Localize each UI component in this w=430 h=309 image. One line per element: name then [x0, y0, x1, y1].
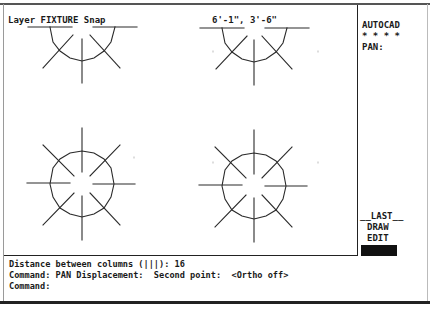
- coordinate-display: 6'-1", 3'-6": [212, 15, 277, 26]
- command-history-line-2: Command: PAN Displacement: Second point:…: [9, 270, 288, 280]
- menu-highlight-bar[interactable]: [361, 245, 397, 256]
- round-fixture-2: [199, 130, 307, 242]
- drawing-canvas[interactable]: Layer FIXTURE Snap 6'-1", 3'-6": [4, 5, 357, 256]
- round-fixture-1: [27, 128, 135, 240]
- menu-item-last[interactable]: __LAST__: [360, 211, 403, 222]
- half-round-fixture-1: [28, 27, 137, 83]
- layer-status: Layer FIXTURE Snap: [8, 15, 106, 26]
- menu-separator[interactable]: * * * *: [362, 31, 400, 42]
- menu-item-draw[interactable]: DRAW: [367, 222, 389, 233]
- menu-title[interactable]: AUTOCAD: [362, 20, 400, 31]
- menu-item-edit[interactable]: EDIT: [367, 233, 389, 244]
- menu-current-command: PAN:: [362, 42, 384, 53]
- drawing-svg: [0, 0, 360, 260]
- half-round-fixture-2: [200, 28, 309, 85]
- command-prompt-input[interactable]: Command:: [9, 281, 50, 291]
- command-history-line-1: Distance between columns (|||): 16: [9, 259, 185, 269]
- screen-menu: AUTOCAD * * * * PAN: __LAST__ DRAW EDIT: [357, 5, 428, 256]
- command-prompt-area[interactable]: Distance between columns (|||): 16 Comma…: [0, 256, 430, 302]
- window-bottom-border: [0, 301, 430, 304]
